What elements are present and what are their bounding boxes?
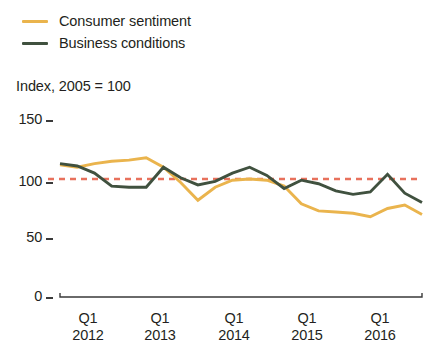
x-tick-label-2014: Q1 2014 bbox=[204, 310, 264, 344]
y-tick-mark-100 bbox=[46, 182, 53, 184]
x-tick-year-2015: 2015 bbox=[277, 327, 337, 344]
x-tick-year-2014: 2014 bbox=[204, 327, 264, 344]
y-tick-label-50: 50 bbox=[0, 229, 42, 245]
y-tick-mark-50 bbox=[46, 238, 53, 240]
x-tick-year-2013: 2013 bbox=[130, 327, 190, 344]
x-tick-quarter-2016: Q1 bbox=[350, 310, 410, 327]
x-tick-quarter-2012: Q1 bbox=[58, 310, 118, 327]
x-tick-year-2016: 2016 bbox=[350, 327, 410, 344]
x-tick-quarter-2013: Q1 bbox=[130, 310, 190, 327]
x-tick-quarter-2015: Q1 bbox=[277, 310, 337, 327]
y-tick-label-100: 100 bbox=[0, 173, 42, 189]
y-tick-label-150: 150 bbox=[0, 111, 42, 127]
y-tick-mark-0 bbox=[46, 297, 53, 299]
x-axis-line bbox=[60, 293, 422, 297]
y-tick-label-0: 0 bbox=[0, 288, 42, 304]
x-tick-label-2012: Q1 2012 bbox=[58, 310, 118, 344]
y-tick-mark-150 bbox=[46, 120, 53, 122]
plot-area bbox=[0, 0, 432, 353]
x-tick-quarter-2014: Q1 bbox=[204, 310, 264, 327]
x-tick-label-2013: Q1 2013 bbox=[130, 310, 190, 344]
x-tick-year-2012: 2012 bbox=[58, 327, 118, 344]
series-line-business-conditions bbox=[60, 164, 422, 203]
x-tick-label-2016: Q1 2016 bbox=[350, 310, 410, 344]
chart-figure: Consumer sentiment Business conditions I… bbox=[0, 0, 432, 353]
x-tick-label-2015: Q1 2015 bbox=[277, 310, 337, 344]
